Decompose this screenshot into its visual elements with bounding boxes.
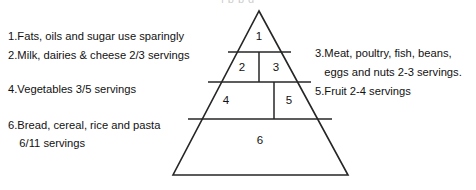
- pyramid-tier-label-2: 2: [239, 61, 245, 73]
- pyramid-tier-label-1: 1: [256, 30, 262, 42]
- pyramid-tier-label-3: 3: [273, 61, 279, 73]
- pyramid-graphic: 123456: [0, 0, 476, 190]
- pyramid-tier-label-4: 4: [223, 94, 230, 106]
- food-pyramid-diagram: l p p g 1. Fats, oils and sugar use spar…: [0, 0, 476, 190]
- pyramid-tier-label-6: 6: [257, 134, 263, 146]
- pyramid-tier-label-5: 5: [286, 94, 292, 106]
